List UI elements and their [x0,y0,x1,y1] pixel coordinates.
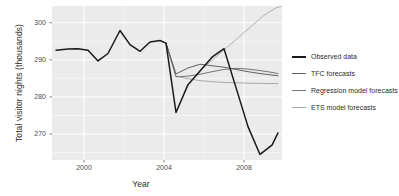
legend-label: TFC forecasts [311,70,355,78]
legend-label: Regression model forecasts [311,87,398,95]
y-tick-label: 290 [20,56,46,63]
x-axis-title: Year [0,179,282,189]
x-tick-label: 2008 [224,164,264,171]
chart-legend: Observed dataTFC forecastsRegression mod… [292,48,399,116]
legend-item[interactable]: TFC forecasts [292,65,399,82]
legend-line-swatch [292,73,306,74]
legend-line-swatch [292,56,306,58]
y-tick-label: 280 [20,93,46,100]
legend-item[interactable]: ETS model forecasts [292,99,399,116]
legend-label: ETS model forecasts [311,104,376,112]
legend-line-swatch [292,90,306,91]
chart-figure: Total visitor nights (thousands) Year 27… [0,0,399,196]
y-tick-label: 300 [20,19,46,26]
legend-item[interactable]: Regression model forecasts [292,82,399,99]
legend-label: Observed data [311,53,357,61]
legend-line-swatch [292,107,306,108]
x-tick-label: 2004 [144,164,184,171]
legend-item[interactable]: Observed data [292,48,399,65]
x-tick-label: 2000 [64,164,104,171]
y-tick-label: 270 [20,130,46,137]
